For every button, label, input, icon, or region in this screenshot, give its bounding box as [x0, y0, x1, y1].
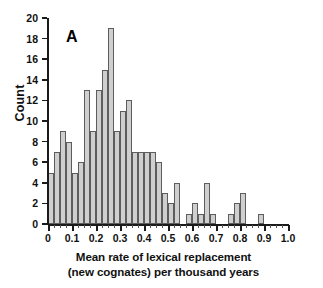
y-axis-tick-label: 20 [8, 13, 38, 23]
y-axis-tick [42, 182, 47, 184]
x-axis-tick [120, 225, 122, 231]
y-axis-title: Count [13, 53, 27, 153]
y-axis-tick-label: 18 [8, 34, 38, 44]
histogram-bar [174, 183, 180, 224]
y-axis-tick [42, 223, 47, 225]
x-axis-minor-tick [102, 225, 103, 228]
x-axis-minor-tick [60, 225, 61, 228]
x-axis-minor-tick [186, 225, 187, 228]
x-axis-tick-label: 1.0 [271, 232, 305, 244]
y-axis-tick [42, 58, 47, 60]
plot-area [48, 18, 288, 224]
y-axis-tick [42, 161, 47, 163]
x-axis-minor-tick [228, 225, 229, 228]
x-axis-minor-tick [162, 225, 163, 228]
y-axis-tick [42, 141, 47, 143]
x-axis-minor-tick [150, 225, 151, 228]
histogram-bar [258, 214, 264, 224]
y-axis-tick [42, 17, 47, 19]
x-axis-tick [192, 225, 194, 231]
x-axis-title-line2: (new cognates) per thousand years [16, 265, 311, 280]
x-axis-minor-tick [156, 225, 157, 228]
x-axis-minor-tick [78, 225, 79, 228]
histogram-figure: A 02468101214161820 00.10.20.30.40.50.60… [0, 0, 323, 288]
x-axis-minor-tick [180, 225, 181, 228]
x-axis-minor-tick [222, 225, 223, 228]
x-axis-minor-tick [258, 225, 259, 228]
x-axis-minor-tick [282, 225, 283, 228]
x-axis-tick [72, 225, 74, 231]
x-axis-minor-tick [84, 225, 85, 228]
x-axis-minor-tick [66, 225, 67, 228]
x-axis-tick [144, 225, 146, 231]
x-axis-minor-tick [90, 225, 91, 228]
x-axis-minor-tick [246, 225, 247, 228]
y-axis-tick-label: 4 [8, 178, 38, 188]
bar-series [48, 18, 288, 224]
x-axis-minor-tick [114, 225, 115, 228]
x-axis-title: Mean rate of lexical replacement (new co… [16, 250, 311, 279]
x-axis-tick [168, 225, 170, 231]
x-axis-tick [264, 225, 266, 231]
histogram-bar [240, 193, 246, 224]
x-axis-minor-tick [54, 225, 55, 228]
x-axis-minor-tick [204, 225, 205, 228]
y-axis-tick [42, 100, 47, 102]
x-axis-minor-tick [234, 225, 235, 228]
x-axis-title-line1: Mean rate of lexical replacement [16, 250, 311, 265]
x-axis-minor-tick [126, 225, 127, 228]
y-axis-tick [42, 79, 47, 81]
y-axis-tick-label: 6 [8, 157, 38, 167]
x-axis-minor-tick [138, 225, 139, 228]
x-axis-minor-tick [252, 225, 253, 228]
x-axis-minor-tick [210, 225, 211, 228]
y-axis-tick-label: 2 [8, 198, 38, 208]
x-axis-tick [48, 225, 50, 231]
x-axis-minor-tick [132, 225, 133, 228]
y-axis-tick [42, 120, 47, 122]
x-axis-minor-tick [174, 225, 175, 228]
x-axis-tick [240, 225, 242, 231]
x-axis-minor-tick [198, 225, 199, 228]
x-axis-minor-tick [108, 225, 109, 228]
x-axis-minor-tick [276, 225, 277, 228]
y-axis-tick [42, 203, 47, 205]
x-axis-minor-tick [270, 225, 271, 228]
panel-label: A [66, 28, 78, 46]
y-axis-tick-label: 0 [8, 219, 38, 229]
x-axis-tick [288, 225, 290, 231]
histogram-bar [210, 214, 216, 224]
y-axis-tick [42, 38, 47, 40]
x-axis-tick [216, 225, 218, 231]
y-axis-line [47, 18, 49, 225]
x-axis-tick [96, 225, 98, 231]
